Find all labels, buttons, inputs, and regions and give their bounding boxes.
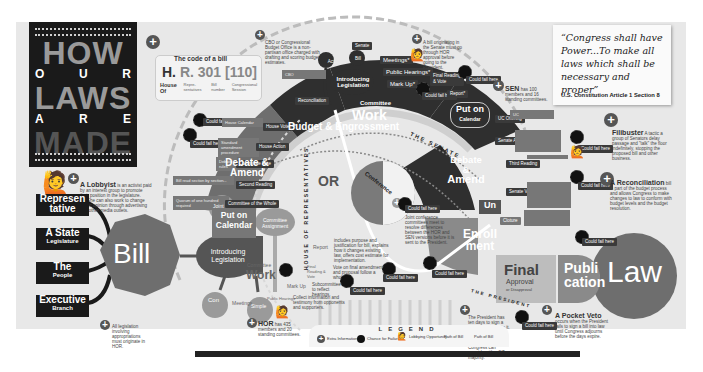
chance-tag: Could fail here <box>383 274 418 282</box>
info-plus-icon[interactable]: + <box>255 30 265 40</box>
senate-detail <box>524 210 570 226</box>
legend-title: LEGEND <box>309 326 509 332</box>
enrollment-label: Enrollment <box>460 228 500 252</box>
senate-detail <box>515 130 561 152</box>
quote-text: “Congress shall have Power...To make all… <box>561 31 665 96</box>
chance-for-failure-icon <box>340 274 354 288</box>
report-tag: Report* <box>447 90 468 98</box>
legend-label: Lobbying Opportunity <box>409 335 447 340</box>
budget-label: Budget & Engrossment <box>288 122 399 132</box>
report-note: includes purpose and justification for b… <box>334 238 389 263</box>
legend-path-dotted: Path of Bill <box>444 335 463 340</box>
act-label: Act <box>324 58 338 66</box>
info-plus-icon[interactable]: + <box>146 35 160 49</box>
filibuster-text: A tactic a group of Senators delay passa… <box>612 131 667 161</box>
label: Branch <box>36 305 89 312</box>
pocket-veto-text: occurs when the President fails to sign … <box>555 319 608 339</box>
code-part: Repre-sentatives <box>184 82 206 94</box>
info-plus-icon[interactable]: + <box>412 34 422 44</box>
legend-lobbying: 🙋Lobbying Opportunity <box>397 335 447 340</box>
code-part: House Of <box>160 82 178 94</box>
info-plus-icon[interactable]: + <box>604 113 618 127</box>
joint-label: Joint <box>213 203 224 209</box>
law-label: Law <box>607 255 662 289</box>
filibuster-note: Filibuster A tactic a group of Senators … <box>612 130 672 161</box>
hor-title: HOR <box>258 320 274 327</box>
label: Executive <box>39 294 86 305</box>
chance-for-failure-icon <box>279 263 293 277</box>
info-plus-icon[interactable]: + <box>100 320 110 330</box>
reconciliation-text: bill is part of the budget process and a… <box>610 181 672 211</box>
chance-tag: Could fail here <box>522 322 557 330</box>
chance-tag: Could fail here <box>350 287 385 295</box>
simple-label: Simple <box>251 303 266 309</box>
sen-note: SEN has 100 members and 16 standing comm… <box>505 86 549 102</box>
lobbyist-icon: 🙋 <box>410 48 425 62</box>
put-on-calendar-senate: Put onCalendar <box>450 102 490 128</box>
pocket-veto-title: A Pocket Veto <box>555 312 601 319</box>
legend-label: Path of Bill <box>444 335 463 340</box>
label: The <box>54 261 72 272</box>
house-tag-label: House Calendar <box>222 118 263 127</box>
debate-amend-label: Debate & Amend <box>222 158 272 178</box>
senate-tag: Senate <box>352 42 372 50</box>
info-plus-icon[interactable]: + <box>542 305 552 315</box>
reconciliation-note: A Reconciliation bill is part of the bud… <box>610 180 672 211</box>
final-label: Final <box>504 261 539 278</box>
committee-whole-tag: Committee of the Whole <box>225 200 279 208</box>
introducing-legislation-label: Introducing Legislation <box>198 248 258 264</box>
senate-detail <box>527 155 568 159</box>
con-label: Con <box>208 297 219 303</box>
pocket-veto-note: A Pocket Veto occurs when the President … <box>555 313 610 339</box>
hor-note: HOR has 435 members and 20 standing comm… <box>258 321 310 337</box>
house-arc-label: HOUSE OF REPRESENTATIVES <box>303 147 309 270</box>
con-bubble <box>202 292 228 318</box>
house-tag-label: Standard amendment procedure <box>218 138 259 157</box>
info-plus-icon[interactable]: + <box>460 305 470 315</box>
committee-label: Committee <box>360 100 391 106</box>
legend: LEGEND +Extra Information Chance for Fai… <box>309 325 509 347</box>
senate-detail <box>527 182 571 208</box>
bill-code-parts: House Of Repre-sentatives Bill number Co… <box>160 82 261 94</box>
info-plus-icon[interactable]: + <box>68 173 79 184</box>
info-plus-icon: + <box>317 335 325 343</box>
footer-credits-bar <box>505 351 580 357</box>
lobbyist-note: A Lobbyist is an activist paid by an int… <box>80 182 152 213</box>
quote-source: U.S. Constitution Article 1 Section 8 <box>561 92 660 98</box>
legend-label: Path of Bill <box>474 335 493 340</box>
label: Calendar <box>459 116 480 122</box>
source-the-people: ThePeople <box>36 262 89 284</box>
senate-debate-label: Debate &Amend <box>446 155 486 185</box>
bill-label: Bill <box>113 238 150 270</box>
reconciliation-title: A Reconciliation <box>610 179 665 186</box>
lobbyist-text: is an activist paid by an interest group… <box>80 183 151 213</box>
footer-credits-bar <box>195 351 505 357</box>
bill-code-heading: The code of a bill <box>174 55 227 62</box>
house-action-tag: House Action <box>256 143 289 151</box>
chance-tag: Could fail here <box>432 270 467 278</box>
info-plus-icon[interactable]: + <box>493 80 504 91</box>
constitution-quote-card: “Congress shall have Power...To make all… <box>553 25 671 105</box>
work-label-lower: Work <box>246 268 276 282</box>
lobbyist-icon: 🙋 <box>570 145 585 159</box>
label: ment <box>466 239 495 253</box>
approval-label: Approval <box>506 278 534 285</box>
senate-origin-note: A bill originating in the Senate must go… <box>423 40 465 70</box>
third-reading-tag: Third Reading <box>506 160 540 168</box>
sen-title: SEN <box>505 85 519 92</box>
or-label: OR <box>318 173 339 189</box>
chance-tag: Could fail here <box>582 238 617 246</box>
legend-extra-info: +Extra Information <box>317 335 357 343</box>
report-step: Report <box>313 244 328 250</box>
cbo-note: CBO or Congressional Budget Office is a … <box>265 40 325 65</box>
public-hearings-step: Public Hearings <box>267 296 295 301</box>
conference-note: Joint conference committees meet to reso… <box>405 215 457 245</box>
info-plus-icon[interactable]: + <box>247 318 257 328</box>
label: cation <box>564 274 605 290</box>
cloture-tag: Cloture <box>500 217 521 225</box>
label: People <box>36 272 89 279</box>
appropriations-note: All legislation involving appropriations… <box>112 324 147 349</box>
bill-code-prefix: H. <box>162 64 176 80</box>
bill-code-card: The code of a bill H. R. 301 [110] House… <box>155 55 262 101</box>
lobbyist-title: A Lobbyist <box>80 181 116 188</box>
